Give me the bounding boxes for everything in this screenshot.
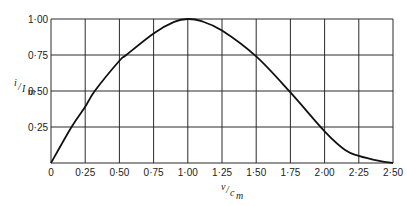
y-label-subscript: m: [28, 86, 35, 97]
y-tick-label: 1·00: [28, 14, 48, 25]
x-tick-label: 2·50: [383, 167, 403, 178]
y-axis-ticks: 0·250·500·751·00: [28, 14, 48, 133]
x-label-subscript: m: [236, 190, 243, 201]
x-tick-label: 1·50: [246, 167, 266, 178]
x-tick-label: 0: [48, 167, 54, 178]
x-tick-label: 0·75: [144, 167, 164, 178]
line-chart: 00·250·500·751·001·251·501·752·002·252·5…: [0, 0, 407, 206]
x-axis-ticks: 00·250·500·751·001·251·501·752·002·252·5…: [48, 167, 403, 178]
x-axis-label: v / c m: [221, 181, 243, 201]
x-tick-label: 0·25: [75, 167, 95, 178]
x-label-denominator: c: [230, 187, 235, 198]
x-tick-label: 1·00: [178, 167, 198, 178]
y-axis-label: i / I m: [14, 77, 35, 97]
y-tick-label: 0·75: [28, 50, 48, 61]
x-tick-label: 2·00: [315, 167, 335, 178]
x-tick-label: 2·25: [349, 167, 369, 178]
grid-lines: [51, 19, 393, 163]
y-label-numerator: i: [14, 77, 17, 88]
y-label-denominator: I: [21, 83, 26, 94]
x-tick-label: 1·25: [212, 167, 232, 178]
y-tick-label: 0·25: [28, 122, 48, 133]
x-tick-label: 1·75: [280, 167, 300, 178]
x-tick-label: 0·50: [109, 167, 129, 178]
